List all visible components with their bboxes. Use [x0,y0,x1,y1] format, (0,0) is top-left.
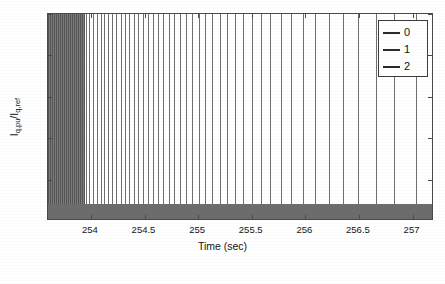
series-spike [192,14,193,219]
x-axis-tick-mark [145,215,146,219]
series-spike [84,14,85,219]
series-spike [158,14,159,219]
x-axis-label: Time (sec) [0,240,445,252]
x-axis-tick-mark [413,14,414,18]
x-axis-tick-mark [359,215,360,219]
series-spike [148,14,149,219]
x-axis-tick-mark [359,14,360,18]
series-spike [121,14,122,219]
x-axis-tick-mark [413,215,414,219]
series-spike [74,14,75,219]
series-spike [60,14,61,219]
x-axis-tick-mark [305,14,306,18]
x-axis-tick-mark [252,14,253,18]
series-spike [174,14,175,219]
series-spike [116,14,117,219]
legend-item-2[interactable]: 2 [383,58,424,75]
y-axis-label-base1: I [8,133,20,136]
y-axis-label-container: Iq,pu/Iq,ref [6,0,22,233]
series-spike [329,14,330,219]
series-spike [252,14,253,219]
series-spike [48,14,49,219]
legend-line-swatch [383,32,400,34]
series-spike [243,14,244,219]
series-spike [315,14,316,219]
series-spike [89,14,90,219]
legend-item-0[interactable]: 0 [383,24,424,41]
legend-item-1[interactable]: 1 [383,41,424,58]
y-axis-tick-mark [48,14,52,15]
series-spike [343,14,344,219]
series-spike [66,14,67,219]
x-axis-tick-mark [305,215,306,219]
y-axis-tick-mark [48,97,52,98]
series-layer [48,14,432,219]
series-spike [56,14,57,219]
y-axis-label-sub2: q,ref [13,97,22,112]
x-axis-tick-label: 257 [404,224,420,235]
x-axis-tick-mark [91,215,92,219]
series-spike [80,14,81,219]
y-axis-tick-mark [428,55,432,56]
x-axis-tick-mark [91,14,92,18]
x-axis-tick-mark [198,215,199,219]
series-spike [376,14,377,219]
series-spike [68,14,69,219]
series-spike [50,14,51,219]
y-axis-tick-mark [428,14,432,15]
series-spike [108,14,109,219]
x-axis-tick-label: 255 [189,224,205,235]
figure-canvas: Iq,pu/Iq,ref 00.10.20.30.40.5 254254.525… [0,0,445,284]
legend-line-swatch [383,66,400,68]
series-spike [134,14,135,219]
series-spike [64,14,65,219]
series-spike [281,14,282,219]
series-spike [212,14,213,219]
series-spike [180,14,181,219]
legend-item-label: 2 [404,61,410,72]
x-axis-tick-mark [252,215,253,219]
series-spike [143,14,144,219]
series-spike [112,14,113,219]
y-axis-label-sub1: q,pu [13,118,22,133]
series-spike [62,14,63,219]
series-spike [261,14,262,219]
x-axis-tick-mark [145,14,146,18]
series-spike [235,14,236,219]
legend[interactable]: 012 [378,20,428,77]
x-axis-tick-label: 255.5 [239,224,263,235]
series-spike [54,14,55,219]
series-spike [358,14,359,219]
baseline-band [48,204,432,220]
y-axis-tick-mark [48,180,52,181]
series-spike [78,14,79,219]
x-axis-tick-label: 256.5 [346,224,370,235]
series-spike [163,14,164,219]
x-axis-tick-label: 256 [296,224,312,235]
series-spike [205,14,206,219]
series-spike [93,14,94,219]
series-spike [101,14,102,219]
series-spike [70,14,71,219]
x-axis-tick-mark [198,14,199,18]
series-spike [291,14,292,219]
y-axis-tick-mark [428,97,432,98]
series-spike [169,14,170,219]
series-spike [303,14,304,219]
series-spike [270,14,271,219]
series-spike [186,14,187,219]
series-spike [58,14,59,219]
y-axis-label: Iq,pu/Iq,ref [8,97,20,135]
series-spike [220,14,221,219]
legend-line-swatch [383,49,400,51]
series-spike [227,14,228,219]
series-spike [72,14,73,219]
y-axis-tick-mark [48,138,52,139]
series-spike [199,14,200,219]
series-spike [125,14,126,219]
legend-item-label: 1 [404,44,410,55]
series-spike [153,14,154,219]
x-axis-tick-label: 254.5 [132,224,156,235]
series-spike [97,14,98,219]
legend-item-label: 0 [404,27,410,38]
